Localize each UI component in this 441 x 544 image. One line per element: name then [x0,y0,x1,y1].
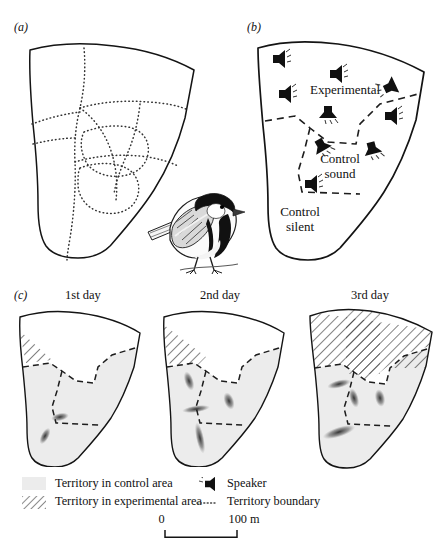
speaker-icon [273,49,291,68]
label-control-silent-2: silent [286,219,315,234]
speaker-icon [305,174,323,193]
panel-b-map: Experimental Control sound Control silen… [248,32,434,264]
day1-map [14,305,144,467]
speaker-icon [279,84,297,103]
label-control-sound-2: sound [324,166,356,181]
legend-item-control-area: Territory in control area [22,476,173,491]
speaker-icon [385,106,403,125]
legend-label-speaker: Speaker [227,476,267,491]
legend-label-control-area: Territory in control area [55,476,173,491]
scale-end-label: 100 m [229,512,260,527]
day2-map [158,305,288,467]
day3-map [302,302,438,470]
speaker-icon [319,106,338,124]
label-experimental: Experimental [310,82,380,97]
speaker-icon [330,64,348,83]
legend-swatch-control-area [22,477,46,490]
day3-title: 3rd day [315,288,425,303]
legend-swatch-speaker-icon [196,477,218,490]
legend-label-territory-boundary: Territory boundary [227,494,320,509]
label-control-sound-1: Control [320,151,360,166]
scale-start-label: 0 [159,512,165,527]
experimental-hatch-day1 [20,331,52,363]
label-control-silent-1: Control [280,204,320,219]
experimental-hatch-day2 [164,325,206,365]
control-territory-fill-day1 [23,347,138,467]
scale-bar-line [141,527,301,541]
scale-bar-labels: 0 100 m [141,512,301,527]
scale-bar: 0 100 m [0,512,441,541]
panel-c-label: (c) [14,288,27,303]
legend-item-experimental-area: Territory in experimental area [22,494,202,509]
legend-item-territory-boundary: Territory boundary [196,494,320,509]
legend-item-speaker: Speaker [196,476,267,491]
day1-title: 1st day [28,288,138,303]
legend-swatch-experimental-area [22,495,46,508]
day2-title: 2nd day [165,288,275,303]
great-tit-bird-illustration [146,178,256,274]
legend-swatch-dotted-line [196,495,218,508]
speaker-icon [362,140,385,162]
figure-root: (a) [0,0,441,544]
legend-label-experimental-area: Territory in experimental area [55,494,202,509]
